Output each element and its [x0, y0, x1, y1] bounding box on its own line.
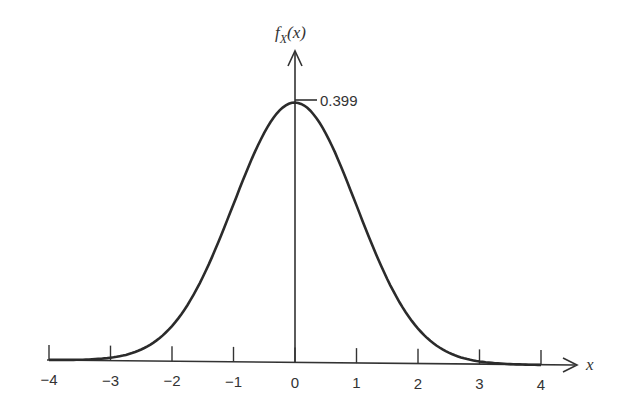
- x-tick-label: −3: [102, 372, 119, 389]
- normal-distribution-chart: −4−3−2−101234 0.399 fX(x) x: [0, 0, 625, 409]
- x-tick-label: 1: [352, 374, 360, 391]
- peak-value-label: 0.399: [320, 92, 358, 109]
- x-tick-label: 0: [291, 374, 299, 391]
- x-tick-label: 4: [537, 376, 545, 393]
- x-tick-label: −4: [40, 371, 57, 388]
- x-tick-label: 3: [475, 375, 483, 392]
- y-axis-label: fX(x): [275, 23, 306, 46]
- x-axis-label: x: [585, 355, 594, 374]
- x-tick-label: −2: [163, 372, 180, 389]
- x-tick-label: 2: [414, 375, 422, 392]
- x-tick-labels: −4−3−2−101234: [40, 371, 545, 393]
- x-tick-label: −1: [225, 373, 242, 390]
